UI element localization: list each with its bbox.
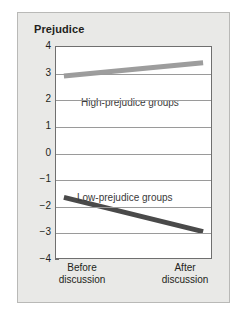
y-tick-mark--4 — [55, 259, 59, 260]
series-label-high-prejudice: High-prejudice groups — [81, 97, 179, 108]
gridline--1 — [56, 180, 211, 181]
y-tick-label--3: −3 — [29, 227, 51, 237]
x-axis-tick-labels: Before discussion After discussion — [55, 262, 212, 296]
gridline--2 — [56, 207, 211, 208]
gridline-0 — [56, 154, 211, 155]
series-lines — [56, 47, 211, 258]
x-tick-label-before: Before discussion — [39, 262, 125, 286]
plot-area: High-prejudice groups Low-prejudice grou… — [55, 46, 212, 259]
gridline-1 — [56, 127, 211, 128]
x-tick-before-line2: discussion — [39, 274, 125, 286]
y-tick-label-4: 4 — [29, 41, 51, 51]
x-tick-label-after: After discussion — [142, 262, 228, 286]
y-tick-label-3: 3 — [29, 68, 51, 78]
x-tick-after-line2: discussion — [142, 274, 228, 286]
y-tick-label-0: 0 — [29, 148, 51, 158]
gridline-3 — [56, 74, 211, 75]
chart-title: Prejudice — [34, 23, 84, 35]
gridline-2 — [56, 100, 211, 101]
x-tick-before-line1: Before — [67, 262, 96, 273]
x-tick-after-line1: After — [174, 262, 195, 273]
y-tick-label-1: 1 — [29, 121, 51, 131]
y-tick-label-2: 2 — [29, 94, 51, 104]
gridline--3 — [56, 233, 211, 234]
y-axis-tick-labels: 43210−1−2−3−4 — [25, 46, 51, 259]
y-tick-label--1: −1 — [29, 174, 51, 184]
series-label-low-prejudice: Low-prejudice groups — [77, 192, 173, 203]
y-tick-label--2: −2 — [29, 201, 51, 211]
figure-card: Prejudice 43210−1−2−3−4 High-prejudice g… — [17, 12, 230, 303]
